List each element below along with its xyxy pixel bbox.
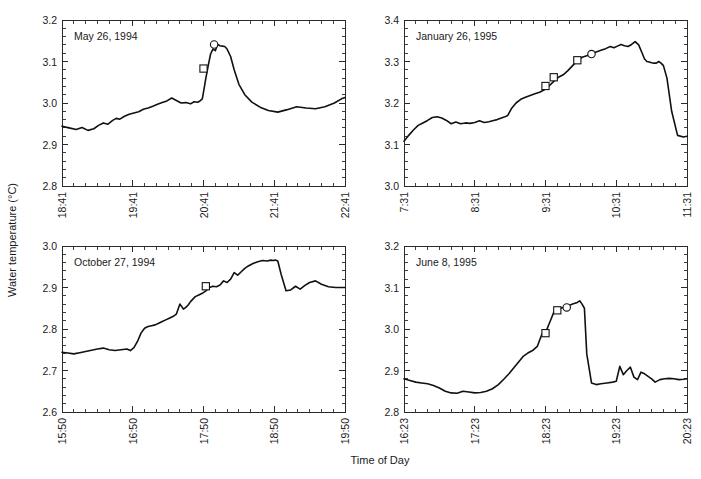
x-tick-label: 8:31 xyxy=(469,192,481,213)
y-tick-label: 3.1 xyxy=(42,56,57,68)
y-tick-label: 3.0 xyxy=(384,323,399,335)
y-axis-title: Water temperature (°C) xyxy=(6,183,18,297)
y-tick-label: 3.0 xyxy=(384,180,399,192)
sample-marker-square xyxy=(574,57,581,64)
x-tick-label: 21:41 xyxy=(268,192,280,218)
x-tick-label: 19:23 xyxy=(610,418,622,444)
x-tick-label: 22:41 xyxy=(339,192,351,218)
y-tick-label: 2.8 xyxy=(42,323,57,335)
y-tick-label: 2.9 xyxy=(384,365,399,377)
x-tick-label: 11:31 xyxy=(681,192,693,218)
sample-marker-square xyxy=(542,82,549,89)
x-tick-label: 18:23 xyxy=(540,418,552,444)
x-tick-label: 18:50 xyxy=(268,418,280,444)
sample-marker-square xyxy=(542,330,549,337)
y-tick-label: 2.6 xyxy=(42,406,57,418)
y-tick-label: 3.3 xyxy=(384,56,399,68)
panel-title: January 26, 1995 xyxy=(416,30,497,42)
x-tick-label: 20:23 xyxy=(681,418,693,444)
y-tick-label: 3.2 xyxy=(384,97,399,109)
x-axis-title: Time of Day xyxy=(351,454,410,466)
panel-title: June 8, 1995 xyxy=(416,256,477,268)
y-tick-label: 3.1 xyxy=(384,282,399,294)
x-tick-label: 16:50 xyxy=(127,418,139,444)
sample-marker-square xyxy=(550,74,557,81)
y-tick-label: 3.0 xyxy=(42,97,57,109)
y-tick-label: 3.4 xyxy=(384,14,399,26)
sample-marker-square xyxy=(202,283,209,290)
x-tick-label: 10:31 xyxy=(610,192,622,218)
x-tick-label: 17:50 xyxy=(198,418,210,444)
y-tick-label: 2.7 xyxy=(42,365,57,377)
x-tick-label: 19:41 xyxy=(127,192,139,218)
x-tick-label: 16:23 xyxy=(398,418,410,444)
y-tick-label: 3.1 xyxy=(384,139,399,151)
x-tick-label: 7:31 xyxy=(398,192,410,213)
figure-background xyxy=(0,0,701,479)
x-tick-label: 20:41 xyxy=(198,192,210,218)
sample-marker-square xyxy=(200,65,207,72)
y-tick-label: 3.0 xyxy=(42,240,57,252)
x-tick-label: 19:50 xyxy=(339,418,351,444)
figure-root: 18:4119:4120:4121:4122:412.82.93.03.13.2… xyxy=(0,0,701,479)
y-tick-label: 2.8 xyxy=(42,180,57,192)
panel-title: May 26, 1994 xyxy=(74,30,138,42)
sample-marker-square xyxy=(554,307,561,314)
x-tick-label: 9:31 xyxy=(540,192,552,213)
y-tick-label: 2.9 xyxy=(42,139,57,151)
water-temperature-figure: 18:4119:4120:4121:4122:412.82.93.03.13.2… xyxy=(0,0,701,479)
sample-marker-circle xyxy=(210,41,217,48)
sample-marker-circle xyxy=(588,50,595,57)
x-tick-label: 17:23 xyxy=(469,418,481,444)
x-tick-label: 18:41 xyxy=(56,192,68,218)
y-tick-label: 3.2 xyxy=(384,240,399,252)
y-tick-label: 3.2 xyxy=(42,14,57,26)
sample-marker-circle xyxy=(563,304,570,311)
panel-title: October 27, 1994 xyxy=(74,256,155,268)
x-tick-label: 15:50 xyxy=(56,418,68,444)
y-tick-label: 2.8 xyxy=(384,406,399,418)
y-tick-label: 2.9 xyxy=(42,282,57,294)
